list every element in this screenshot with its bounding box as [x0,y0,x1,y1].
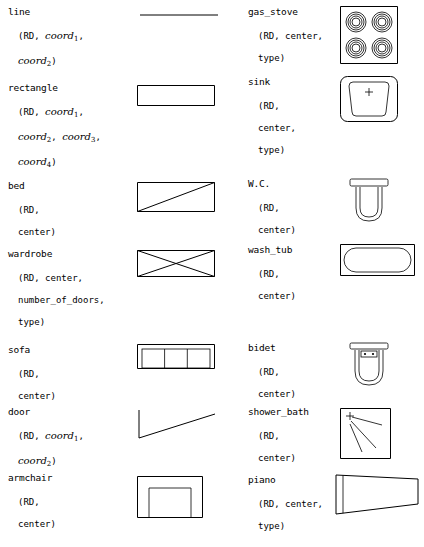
entry-wc-labels: W.C. (RD,center) [248,178,360,241]
param-line: (RD, [18,363,136,385]
entry-armchair-name: armchair [8,472,136,483]
armchair-icon [137,476,217,520]
param-line: coord2, coord3, [18,126,136,151]
param-line: (RD, center, [18,267,136,289]
entry-bed-params: (RD,center) [8,199,136,243]
entry-wardrobe-name: wardrobe [8,248,136,259]
entry-line-params: (RD, coord1,coord2) [8,25,136,75]
param-line: (RD, [18,491,136,513]
entry-bidet-name: bidet [248,342,360,353]
entry-line-labels: line (RD, coord1,coord2) [8,6,136,75]
entry-wc-params: (RD,center) [248,197,360,241]
entry-rectangle-labels: rectangle (RD, coord1,coord2, coord3,coo… [8,82,136,175]
entry-door-name: door [8,406,136,417]
param-line: (RD, coord1, [18,425,136,450]
sink-icon [340,76,402,126]
param-line: (RD, [18,199,136,221]
rectangle-icon [137,85,217,107]
param-line: type) [258,515,360,537]
entry-bed-name: bed [8,180,136,191]
piano-icon [335,474,421,518]
entry-sofa-params: (RD,center) [8,363,136,407]
entry-wc-name: W.C. [248,178,360,189]
param-line: (RD, coord1, [18,25,136,50]
param-line: (RD, coord1, [18,101,136,126]
left-column: line (RD, coord1,coord2) rectangle (RD, … [0,0,212,547]
param-line: center) [18,513,136,535]
param-line: center) [258,285,360,307]
param-line: center) [18,385,136,407]
param-line: type) [18,311,136,333]
bed-icon [137,182,217,214]
entry-door-params: (RD, coord1,coord2) [8,425,136,475]
entry-bed-labels: bed (RD,center) [8,180,136,243]
wc-icon [345,178,401,228]
entry-sofa-name: sofa [8,344,136,355]
entry-bidet-labels: bidet (RD,center) [248,342,360,405]
entry-armchair-params: (RD,center) [8,491,136,535]
entry-rectangle-params: (RD, coord1,coord2, coord3,coord4) [8,101,136,175]
wardrobe-icon [137,250,217,280]
reference-table-page: line (RD, coord1,coord2) rectangle (RD, … [0,0,424,547]
entry-sofa-labels: sofa (RD,center) [8,344,136,407]
bidet-icon [345,342,401,392]
door-icon [137,408,217,442]
param-line: coord2) [18,450,136,475]
entry-armchair-labels: armchair (RD,center) [8,472,136,535]
line-icon [140,12,218,22]
param-line: number_of_doors, [18,289,136,311]
entry-bidet-params: (RD,center) [248,361,360,405]
entry-line-name: line [8,6,136,17]
param-line: type) [258,139,360,161]
param-line: coord2) [18,50,136,75]
sofa-icon [137,344,217,372]
entry-wardrobe-params: (RD, center,number_of_doors,type) [8,267,136,333]
param-line: center) [18,221,136,243]
entry-rectangle-name: rectangle [8,82,136,93]
shower-bath-icon [340,408,402,462]
wash-tub-icon [340,244,420,280]
right-column: gas_stove (RD, center,type) [212,0,424,547]
entry-door-labels: door (RD, coord1,coord2) [8,406,136,475]
entry-wardrobe-labels: wardrobe (RD, center,number_of_doors,typ… [8,248,136,333]
param-line: coord4) [18,151,136,176]
gas-stove-icon [340,6,402,66]
